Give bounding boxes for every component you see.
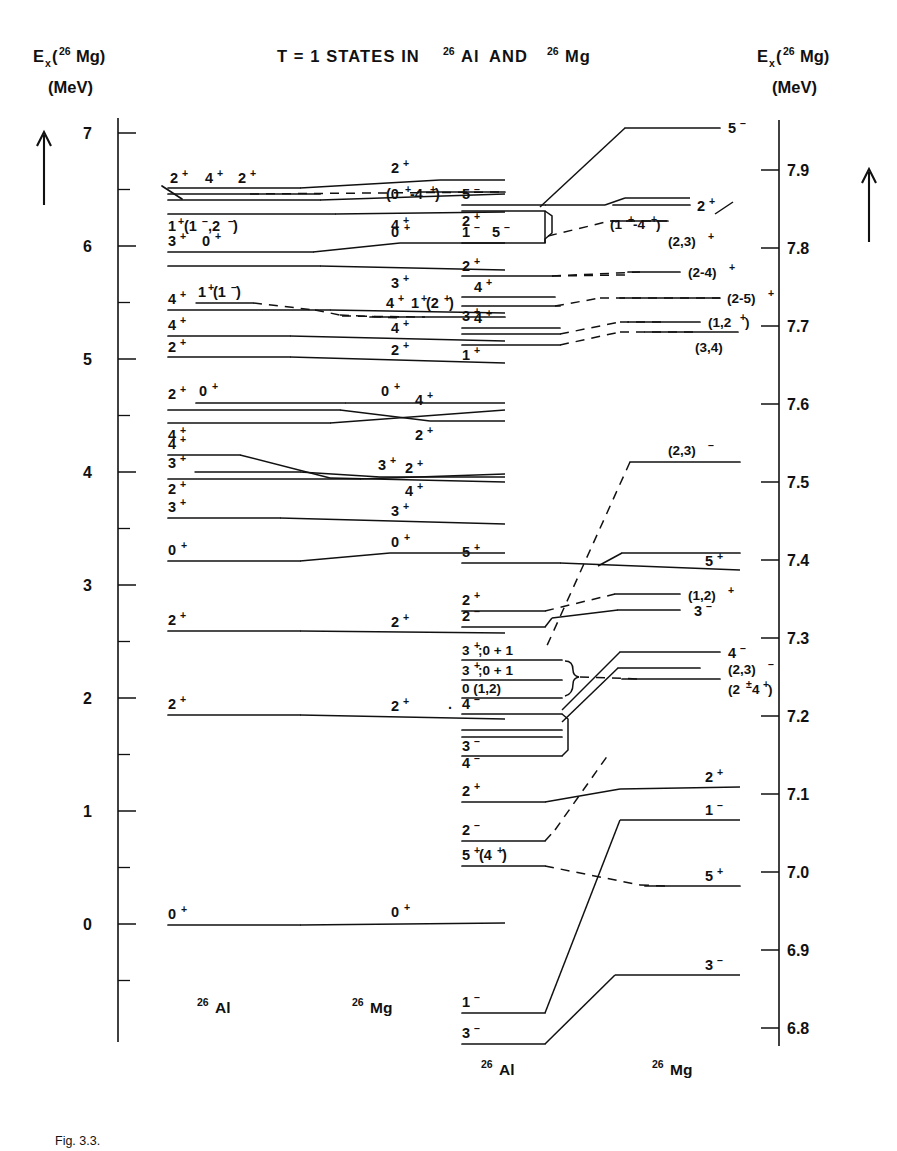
level-label: 3 bbox=[391, 503, 399, 519]
level-label: (1 bbox=[610, 217, 622, 232]
level-label: (2-5) bbox=[727, 291, 756, 306]
left-axis-up-arrow-icon bbox=[37, 132, 51, 205]
level-label: ;0 + 1 bbox=[478, 663, 513, 678]
level-label: 4 bbox=[168, 436, 176, 452]
svg-text:26: 26 bbox=[352, 996, 364, 1008]
level-label: 5 bbox=[462, 847, 470, 863]
level-label: 3 bbox=[694, 603, 702, 619]
svg-text:): ) bbox=[233, 218, 238, 234]
svg-text:+: + bbox=[474, 344, 480, 356]
level-label: 2 bbox=[462, 822, 470, 838]
level-label: -4 bbox=[633, 217, 645, 232]
left-tick-3: 3 bbox=[83, 577, 92, 594]
title-lead: T = 1 STATES IN bbox=[277, 47, 420, 65]
right-axis: 7.9 7.8 7.7 7.6 7.5 7.4 7.3 7.2 7.1 7.0 … bbox=[761, 120, 876, 1046]
level-label: 2 bbox=[168, 612, 176, 628]
svg-text:+: + bbox=[390, 454, 396, 466]
svg-text:+: + bbox=[404, 531, 410, 543]
level-label: 5 bbox=[705, 868, 713, 884]
level-label: 0 bbox=[381, 383, 389, 399]
level-label: 0 bbox=[202, 233, 210, 249]
level-label: 1 bbox=[168, 218, 176, 234]
svg-text:Mg): Mg) bbox=[76, 47, 105, 65]
level-label: 2 bbox=[697, 198, 705, 214]
figure-caption: Fig. 3.3. bbox=[55, 1134, 100, 1148]
level-label: 2 bbox=[168, 481, 176, 497]
level-label: 5 bbox=[462, 186, 470, 202]
svg-text:+: + bbox=[180, 336, 186, 348]
svg-text:+: + bbox=[212, 380, 218, 392]
svg-text:+: + bbox=[180, 433, 186, 445]
level-label: 0 bbox=[391, 534, 399, 550]
svg-text:26: 26 bbox=[59, 45, 71, 57]
level-label: 5 bbox=[705, 553, 713, 569]
level-label: 5 bbox=[462, 544, 470, 560]
svg-text:–: – bbox=[474, 693, 480, 705]
level-label: 4 bbox=[391, 320, 399, 336]
svg-text:+: + bbox=[717, 550, 723, 562]
svg-text:–: – bbox=[717, 954, 723, 966]
svg-text:+: + bbox=[486, 276, 492, 288]
level-label: 4 bbox=[728, 645, 736, 661]
svg-text:+: + bbox=[180, 496, 186, 508]
level-label: -4 bbox=[410, 186, 423, 202]
svg-text:Mg: Mg bbox=[670, 1061, 692, 1078]
svg-text:Al: Al bbox=[215, 999, 231, 1016]
level-label: 4 bbox=[205, 170, 213, 186]
level-label: 2 bbox=[168, 696, 176, 712]
level-label: 4 bbox=[462, 755, 470, 771]
svg-text:+: + bbox=[486, 307, 492, 319]
svg-text:+: + bbox=[180, 314, 186, 326]
svg-text:+: + bbox=[427, 389, 433, 401]
level-label: 5 bbox=[492, 224, 500, 240]
svg-text:–: – bbox=[474, 1022, 480, 1034]
level-label: 2 bbox=[415, 427, 423, 443]
svg-text:+: + bbox=[180, 609, 186, 621]
level-label: 3 bbox=[168, 499, 176, 515]
level-label: 5 bbox=[728, 120, 736, 136]
right-axis-label: E x ( 26 Mg) (MeV) bbox=[757, 45, 829, 96]
svg-text:+: + bbox=[394, 380, 400, 392]
level-diagram-svg: T = 1 STATES IN 26 Al AND 26 Mg E x ( 26… bbox=[0, 0, 897, 1151]
svg-text:26: 26 bbox=[481, 1058, 493, 1070]
level-label: 4 bbox=[462, 696, 470, 712]
level-label: 3 bbox=[168, 455, 176, 471]
svg-text:+: + bbox=[404, 901, 410, 913]
svg-text:): ) bbox=[502, 847, 507, 863]
svg-text:26: 26 bbox=[652, 1058, 664, 1070]
svg-text:): ) bbox=[745, 315, 750, 330]
svg-text:x: x bbox=[769, 57, 775, 69]
left-tick-0: 0 bbox=[83, 916, 92, 933]
svg-text:+: + bbox=[728, 584, 734, 596]
level-label: 1 bbox=[462, 224, 470, 240]
svg-text:E: E bbox=[757, 47, 768, 65]
svg-text:+: + bbox=[180, 230, 186, 242]
svg-text:+: + bbox=[729, 261, 735, 273]
level-label: (4 bbox=[479, 847, 492, 863]
level-label: (1,2 bbox=[708, 315, 731, 330]
svg-text:–: – bbox=[706, 600, 712, 612]
svg-text:+: + bbox=[427, 424, 433, 436]
level-label: 2 bbox=[170, 170, 178, 186]
level-label: 4 bbox=[752, 682, 760, 697]
right-tick-7-2: 7.2 bbox=[787, 708, 809, 725]
level-label: 4 bbox=[474, 279, 482, 295]
left-axis-label: E x ( 26 Mg) (MeV) bbox=[33, 45, 105, 96]
svg-text:+: + bbox=[403, 157, 409, 169]
svg-text:–: – bbox=[768, 658, 774, 670]
level-label: 1 bbox=[198, 284, 206, 300]
svg-text:+: + bbox=[709, 195, 715, 207]
svg-text:): ) bbox=[449, 295, 454, 311]
svg-text:+: + bbox=[181, 539, 187, 551]
svg-text:+: + bbox=[181, 903, 187, 915]
svg-text:–: – bbox=[474, 605, 480, 617]
svg-text:–: – bbox=[474, 752, 480, 764]
level-label: 2 bbox=[168, 339, 176, 355]
svg-text:+: + bbox=[708, 230, 714, 242]
level-label: 3 bbox=[378, 457, 386, 473]
bullet-marker: · bbox=[448, 700, 453, 716]
figure-title: T = 1 STATES IN 26 Al AND 26 Mg bbox=[277, 45, 591, 65]
left-panel-levels: 2+ 4+ 2+ 1+ (1– ,2–) 2+ (0+ -4+) 4+ 3+ 0… bbox=[162, 157, 505, 1016]
svg-text:26: 26 bbox=[197, 996, 209, 1008]
level-label: (0 bbox=[386, 186, 399, 202]
